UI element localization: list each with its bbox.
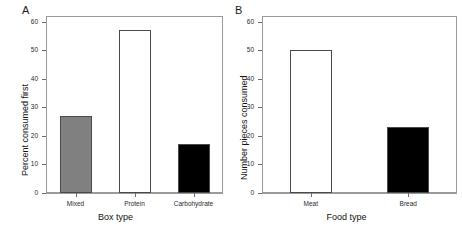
y-axis-tick-label: 40 bbox=[16, 76, 38, 83]
panel-b: B 0102030405060 MeatBread Number pieces … bbox=[231, 0, 462, 233]
panel-b-y-axis-title: Number pieces consumed bbox=[239, 75, 249, 180]
y-axis-tick bbox=[42, 22, 46, 23]
y-axis-tick-label: 60 bbox=[16, 19, 38, 26]
panel-b-letter: B bbox=[235, 4, 243, 16]
y-axis-tick bbox=[258, 79, 262, 80]
y-axis-tick bbox=[258, 22, 262, 23]
bar-bread bbox=[387, 127, 429, 193]
panel-a-x-axis-title: Box type bbox=[0, 212, 231, 222]
x-axis-tick-label: Carbohydrate bbox=[154, 201, 234, 208]
y-axis-tick-label: 50 bbox=[16, 47, 38, 54]
y-axis-tick bbox=[42, 50, 46, 51]
y-axis-tick-label: 60 bbox=[232, 19, 254, 26]
panel-a: A 0102030405060 MixedProteinCarbohydrate… bbox=[0, 0, 231, 233]
y-axis-tick bbox=[42, 136, 46, 137]
y-axis-tick bbox=[42, 193, 46, 194]
x-axis-tick bbox=[408, 193, 409, 197]
panel-b-x-axis-title: Food type bbox=[231, 212, 462, 222]
panel-b-x-axis bbox=[262, 193, 457, 194]
bar-protein bbox=[119, 30, 151, 193]
x-axis-tick-label: Meat bbox=[271, 201, 351, 208]
x-axis-tick bbox=[311, 193, 312, 197]
panel-b-y-axis bbox=[262, 16, 263, 193]
y-axis-tick bbox=[258, 107, 262, 108]
panel-a-y-axis bbox=[46, 16, 47, 193]
x-axis-tick bbox=[194, 193, 195, 197]
y-axis-tick-label: 0 bbox=[232, 190, 254, 197]
bar-meat bbox=[290, 50, 332, 193]
y-axis-tick bbox=[258, 136, 262, 137]
bar-carbohydrate bbox=[178, 144, 210, 193]
y-axis-tick bbox=[258, 164, 262, 165]
panel-a-y-axis-title: Percent consumed first bbox=[20, 84, 30, 176]
x-axis-tick bbox=[135, 193, 136, 197]
panel-a-letter: A bbox=[22, 4, 30, 16]
y-axis-tick bbox=[42, 164, 46, 165]
figure-canvas: A 0102030405060 MixedProteinCarbohydrate… bbox=[0, 0, 462, 233]
bar-mixed bbox=[60, 116, 92, 193]
y-axis-tick bbox=[42, 107, 46, 108]
x-axis-tick bbox=[76, 193, 77, 197]
y-axis-tick-label: 0 bbox=[16, 190, 38, 197]
y-axis-tick bbox=[258, 193, 262, 194]
y-axis-tick-label: 50 bbox=[232, 47, 254, 54]
y-axis-tick bbox=[258, 50, 262, 51]
y-axis-tick bbox=[42, 79, 46, 80]
x-axis-tick-label: Bread bbox=[368, 201, 448, 208]
